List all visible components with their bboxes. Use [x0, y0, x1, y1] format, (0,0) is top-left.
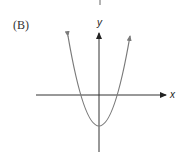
x-axis-label: x: [169, 89, 176, 100]
y-axis-label: y: [96, 17, 103, 28]
graph: y x: [0, 0, 184, 152]
